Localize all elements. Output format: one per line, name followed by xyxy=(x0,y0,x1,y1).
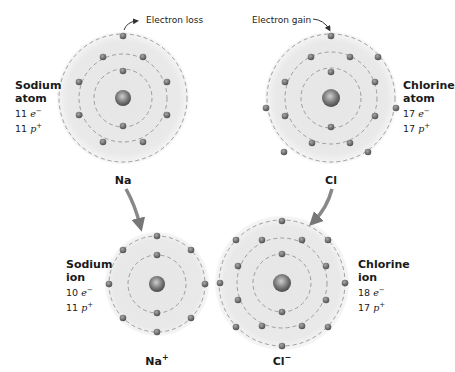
electron-gain-arrow-icon xyxy=(313,19,329,29)
sodium-ion-label: Sodium ion 10 e− 11 p+ xyxy=(66,258,112,314)
particle-kind: ion xyxy=(358,271,410,284)
chlorine-atom-label: Chlorine atom 17 e− 17 p+ xyxy=(403,79,455,135)
electron-count: 10 e− xyxy=(66,284,112,299)
sodium-atom-model xyxy=(57,32,189,164)
chlorine-transition-arrow-icon xyxy=(314,189,332,221)
electron-count: 17 e− xyxy=(403,105,455,120)
particle-kind: ion xyxy=(66,271,112,284)
particle-kind: atom xyxy=(403,92,455,105)
nucleus-icon xyxy=(115,90,131,106)
element-name: Sodium xyxy=(15,79,61,92)
proton-count: 11 p+ xyxy=(66,299,112,314)
sodium-atom-symbol: Na xyxy=(115,172,132,187)
nucleus-icon xyxy=(149,276,165,292)
particle-kind: atom xyxy=(15,92,61,105)
sodium-ion-symbol: Na+ xyxy=(145,353,168,368)
nucleus-icon xyxy=(273,274,291,292)
electron-count: 11 e− xyxy=(15,105,61,120)
electron-count: 18 e− xyxy=(358,284,410,299)
sodium-ion-model xyxy=(105,232,209,336)
proton-count: 17 p+ xyxy=(403,120,455,135)
element-name: Chlorine xyxy=(403,79,455,92)
electron-loss-label: Electron loss xyxy=(146,15,203,25)
chlorine-atom-model xyxy=(263,32,400,164)
element-name: Chlorine xyxy=(358,258,410,271)
nucleus-icon xyxy=(322,89,340,107)
proton-count: 17 p+ xyxy=(358,299,410,314)
sodium-atom-label: Sodium atom 11 e− 11 p+ xyxy=(15,79,61,135)
chlorine-ion-label: Chlorine ion 18 e− 17 p+ xyxy=(358,258,410,314)
sodium-transition-arrow-icon xyxy=(126,189,140,225)
electron-gain-label: Electron gain xyxy=(252,15,311,25)
chlorine-atom-symbol: Cl xyxy=(325,172,337,187)
chloride-ion-model xyxy=(215,216,349,350)
element-name: Sodium xyxy=(66,258,112,271)
electron-loss-arrow-icon xyxy=(124,21,136,30)
chloride-ion-symbol: Cl− xyxy=(273,353,292,368)
proton-count: 11 p+ xyxy=(15,120,61,135)
